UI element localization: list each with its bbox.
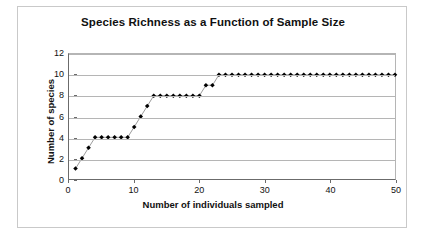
y-tick-label: 12: [30, 48, 64, 58]
gridline: [69, 118, 395, 119]
gridline: [69, 75, 395, 76]
chart-container: Species Richness as a Function of Sample…: [17, 6, 407, 228]
x-tick-mark: [68, 180, 69, 183]
y-tick-label: 10: [30, 69, 64, 79]
x-tick-mark: [330, 180, 331, 183]
data-point-marker: [145, 104, 150, 109]
gridline: [69, 96, 395, 97]
chart-title: Species Richness as a Function of Sample…: [18, 16, 408, 28]
y-tick-label: 0: [30, 175, 64, 185]
data-point-marker: [73, 166, 78, 171]
plot-area: [68, 53, 396, 180]
data-point-marker: [210, 83, 215, 88]
x-tick-label: 40: [325, 185, 335, 195]
x-tick-mark: [396, 180, 397, 183]
series-line: [76, 75, 395, 169]
y-tick-label: 2: [30, 154, 64, 164]
x-tick-mark: [265, 180, 266, 183]
gridline: [69, 54, 395, 55]
y-axis-ticks: 024681012: [28, 53, 64, 180]
data-point-marker: [204, 83, 209, 88]
x-tick-mark: [134, 180, 135, 183]
gridline: [69, 139, 395, 140]
x-tick-label: 0: [65, 185, 70, 195]
gridline: [69, 160, 395, 161]
y-tick-label: 4: [30, 133, 64, 143]
x-tick-mark: [199, 180, 200, 183]
y-tick-label: 8: [30, 90, 64, 100]
x-tick-label: 10: [129, 185, 139, 195]
y-tick-label: 6: [30, 112, 64, 122]
x-tick-label: 20: [194, 185, 204, 195]
x-tick-label: 50: [391, 185, 401, 195]
x-axis-title: Number of individuals sampled: [18, 199, 408, 210]
x-tick-label: 30: [260, 185, 270, 195]
data-point-marker: [86, 145, 91, 150]
data-point-marker: [132, 125, 137, 130]
